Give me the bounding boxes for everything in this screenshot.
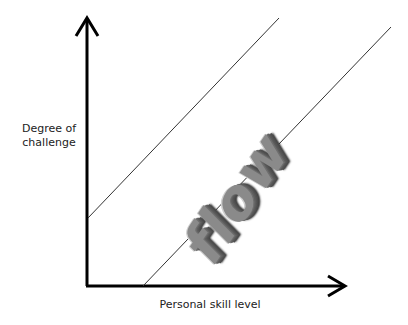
y-axis-label: Degree of challenge bbox=[14, 122, 84, 150]
flow-diagram-canvas bbox=[0, 0, 408, 325]
x-axis-label: Personal skill level bbox=[150, 298, 270, 312]
